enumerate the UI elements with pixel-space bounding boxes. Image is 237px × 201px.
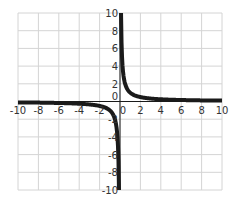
y-tick-label: -6 xyxy=(108,150,118,161)
x-tick-label: 10 xyxy=(216,105,229,116)
x-tick-label: -4 xyxy=(74,105,84,116)
x-tick-label: 2 xyxy=(137,105,143,116)
y-tick-label: -8 xyxy=(108,167,118,178)
x-tick-label: -2 xyxy=(95,105,105,116)
x-tick-label: 0 xyxy=(120,105,126,116)
branch-negative-curve xyxy=(18,102,119,190)
y-tick-label: -2 xyxy=(108,114,118,125)
y-tick-label: -10 xyxy=(102,185,118,196)
y-tick-label: 2 xyxy=(112,79,118,90)
y-tick-label: 4 xyxy=(112,61,118,72)
y-tick-label: 6 xyxy=(112,43,118,54)
x-tick-label: -10 xyxy=(10,105,26,116)
x-tick-label: 6 xyxy=(178,105,184,116)
x-tick-label: 4 xyxy=(158,105,164,116)
y-tick-label: 0 xyxy=(112,91,118,102)
y-tick-label: 10 xyxy=(105,8,118,19)
x-tick-label: -6 xyxy=(54,105,64,116)
branch-positive-curve xyxy=(121,13,222,101)
x-tick-label: -8 xyxy=(33,105,43,116)
y-tick-label: 8 xyxy=(112,26,118,37)
y-tick-label: -4 xyxy=(108,132,118,143)
hyperbola-chart: -10-8-6-4-20246810 1086420-2-4-6-8-10 xyxy=(0,0,237,201)
x-tick-label: 8 xyxy=(198,105,204,116)
x-tick-labels: -10-8-6-4-20246810 xyxy=(10,105,229,116)
